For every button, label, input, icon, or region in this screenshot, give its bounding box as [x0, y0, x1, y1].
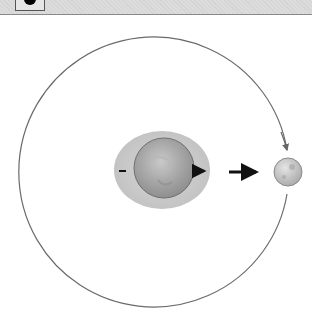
tidal-diagram	[0, 0, 323, 316]
earth-globe	[134, 138, 194, 198]
moon	[274, 158, 302, 186]
